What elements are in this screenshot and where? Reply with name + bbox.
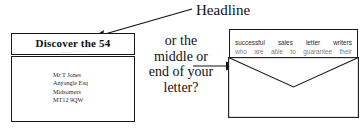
right-envelope-flap-body	[228, 57, 359, 118]
right-envelope-text-window: successful sales letter writers who are …	[229, 29, 358, 59]
copy-word: sales	[278, 38, 293, 47]
right-envelope: successful sales letter writers who are …	[228, 29, 359, 118]
copy-word: to	[290, 47, 295, 56]
right-envelope-body-copy: successful sales letter writers who are …	[235, 38, 352, 56]
address-line: MT12 9QW	[53, 96, 88, 104]
copy-word: letter	[306, 38, 320, 47]
right-envelope-line-2: who are able to guarantee their	[235, 47, 352, 56]
copy-word: guarantee	[303, 47, 332, 56]
left-envelope: Discover the 54 — —···· · · Mr T Jones A…	[11, 33, 135, 122]
copy-word: writers	[333, 38, 352, 47]
diagram-canvas: Headline Discover the 54 — —···· · · Mr …	[0, 0, 364, 130]
copy-word: successful	[235, 38, 265, 47]
right-envelope-line-1: successful sales letter writers	[235, 38, 352, 47]
copy-word: their	[340, 47, 352, 56]
address-line: Anyangle Esq	[53, 79, 88, 87]
copy-word: able	[271, 47, 283, 56]
left-envelope-headline-text: Discover the 54	[12, 37, 134, 49]
left-envelope-address-block: Mr T Jones Anyangle Esq Midsomers MT12 9…	[53, 71, 88, 105]
caption-line-4: letter?	[141, 80, 221, 96]
copy-word: who	[235, 47, 247, 56]
address-line: Midsomers	[53, 88, 88, 96]
left-envelope-body: Mr T Jones Anyangle Esq Midsomers MT12 9…	[11, 56, 135, 122]
left-envelope-subline-text: — —···· · ·	[20, 49, 126, 54]
headline-callout-label: Headline	[196, 2, 250, 19]
copy-word: are	[254, 47, 263, 56]
left-envelope-headline-window: Discover the 54 — —···· · ·	[11, 33, 135, 55]
caption-line-1: or the	[141, 33, 221, 49]
address-line: Mr T Jones	[53, 71, 88, 79]
